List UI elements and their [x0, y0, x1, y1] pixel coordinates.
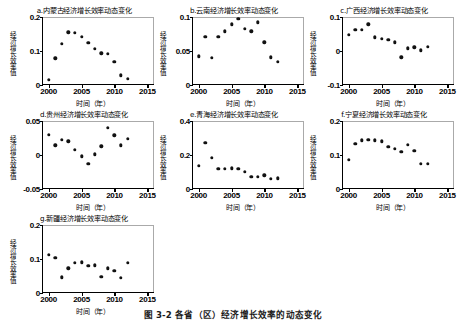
x-tick-label-d-2: 2010 [106, 191, 123, 200]
x-axis-a [42, 84, 154, 85]
x-tick-mark-e-3 [297, 189, 298, 192]
x-tick-mark-c-0 [349, 85, 350, 88]
x-tick-label-e-3: 2015 [289, 191, 306, 200]
y-tick-mark-g-2 [40, 225, 43, 226]
x-tick-mark-d-0 [49, 189, 50, 192]
x-tick-label-d-3: 2015 [139, 191, 156, 200]
x-tick-mark-f-0 [349, 189, 350, 192]
y-tick-mark-a-1 [40, 51, 43, 52]
y-tick-label-d-0: -0.05 [23, 185, 40, 194]
x-tick-label-d-0: 2000 [40, 191, 57, 200]
x-tick-mark-g-0 [49, 293, 50, 296]
x-tick-mark-e-2 [264, 189, 265, 192]
plot-frame-e [192, 121, 304, 189]
x-tick-mark-g-2 [114, 293, 115, 296]
x-axis-b [192, 84, 304, 85]
x-tick-mark-g-1 [82, 293, 83, 296]
x-tick-mark-e-1 [232, 189, 233, 192]
chart-panel-e: e.青海经济增长效率动态变化经济增长效率值时间（年）00.20.42000200… [158, 110, 310, 214]
y-axis-label-b: 经济增长效率值 [156, 18, 167, 88]
x-axis-label-c: 时间（年） [328, 98, 458, 108]
x-tick-label-g-0: 2000 [40, 295, 57, 304]
y-tick-label-d-2: 0.05 [26, 117, 40, 126]
x-axis-label-b: 时间（年） [178, 98, 308, 108]
x-tick-mark-f-3 [447, 189, 448, 192]
x-tick-label-g-2: 2010 [106, 295, 123, 304]
y-axis-label-d: 经济增长效率值 [6, 122, 17, 192]
y-tick-label-a-1: 0.1 [30, 47, 40, 56]
x-tick-mark-b-1 [232, 85, 233, 88]
plot-area-a: 00.10.22000200520102015 [42, 17, 154, 85]
x-axis-label-e: 时间（年） [178, 202, 308, 212]
plot-area-e: 00.20.42000200520102015 [192, 121, 304, 189]
chart-panel-c: c.广西经济增长效率动态变化经济增长效率值时间（年）-0.100.1200020… [308, 6, 460, 110]
x-tick-mark-c-1 [382, 85, 383, 88]
y-tick-label-f-1: 0.1 [330, 151, 340, 160]
x-tick-label-b-2: 2010 [256, 87, 273, 96]
y-axis-label-c: 经济增长效率值 [306, 18, 317, 88]
y-tick-mark-d-1 [40, 155, 43, 156]
plot-frame-a [42, 17, 154, 85]
x-tick-label-b-1: 2005 [223, 87, 240, 96]
plot-area-c: -0.100.12000200520102015 [342, 17, 454, 85]
x-tick-mark-a-3 [147, 85, 148, 88]
x-tick-mark-b-2 [264, 85, 265, 88]
y-tick-mark-d-2 [40, 121, 43, 122]
y-tick-label-g-2: 0.2 [30, 221, 40, 230]
y-tick-label-b-2: 0.1 [180, 13, 190, 22]
x-tick-mark-f-1 [382, 189, 383, 192]
y-axis-label-a: 经济增长效率值 [6, 18, 17, 88]
x-tick-label-e-1: 2005 [223, 191, 240, 200]
x-tick-label-a-2: 2010 [106, 87, 123, 96]
figure-caption: 图 3-2 各省（区）经济增长效率的动态变化 [0, 308, 466, 320]
x-axis-d [42, 188, 154, 189]
chart-panel-b: b.云南经济增长效率动态变化经济增长效率值时间（年）00.050.1200020… [158, 6, 310, 110]
y-axis-label-g: 经济增长效率值 [6, 226, 17, 296]
figure-container: a.内蒙古经济增长效率动态变化经济增长效率值时间（年）00.10.2200020… [0, 0, 466, 324]
chart-panel-f: f.宁夏经济增长效率动态变化经济增长效率值时间（年）00.10.22000200… [308, 110, 460, 214]
x-tick-mark-d-1 [82, 189, 83, 192]
x-tick-label-b-0: 2000 [190, 87, 207, 96]
x-tick-label-c-3: 2015 [439, 87, 456, 96]
plot-frame-b [192, 17, 304, 85]
y-tick-label-b-1: 0.05 [176, 47, 190, 56]
x-tick-mark-e-0 [199, 189, 200, 192]
x-tick-mark-a-0 [49, 85, 50, 88]
x-axis-label-d: 时间（年） [28, 202, 158, 212]
x-tick-mark-a-2 [114, 85, 115, 88]
x-tick-label-f-1: 2005 [373, 191, 390, 200]
y-tick-label-f-2: 0.2 [330, 117, 340, 126]
x-tick-mark-b-0 [199, 85, 200, 88]
y-tick-mark-e-2 [190, 121, 193, 122]
x-tick-mark-d-3 [147, 189, 148, 192]
x-tick-mark-a-1 [82, 85, 83, 88]
plot-area-f: 00.10.22000200520102015 [342, 121, 454, 189]
x-tick-label-c-2: 2010 [406, 87, 423, 96]
x-tick-label-e-2: 2010 [256, 191, 273, 200]
x-axis-g [42, 292, 154, 293]
x-tick-label-f-2: 2010 [406, 191, 423, 200]
x-tick-label-b-3: 2015 [289, 87, 306, 96]
x-tick-label-f-3: 2015 [439, 191, 456, 200]
y-tick-mark-b-1 [190, 51, 193, 52]
x-axis-f [342, 188, 454, 189]
x-tick-label-a-0: 2000 [40, 87, 57, 96]
x-tick-label-d-1: 2005 [73, 191, 90, 200]
y-tick-label-a-2: 0.2 [30, 13, 40, 22]
plot-area-g: 00.10.22000200520102015 [42, 225, 154, 293]
chart-panel-a: a.内蒙古经济增长效率动态变化经济增长效率值时间（年）00.10.2200020… [8, 6, 160, 110]
chart-panel-d: d.贵州经济增长效率动态变化经济增长效率值时间（年）-0.0500.052000… [8, 110, 160, 214]
plot-area-b: 00.050.12000200520102015 [192, 17, 304, 85]
plot-frame-f [342, 121, 454, 189]
y-tick-mark-c-1 [340, 51, 343, 52]
y-tick-label-e-2: 0.4 [180, 117, 190, 126]
x-axis-e [192, 188, 304, 189]
y-axis-label-f: 经济增长效率值 [306, 122, 317, 192]
y-tick-label-e-1: 0.2 [180, 151, 190, 160]
y-tick-mark-f-2 [340, 121, 343, 122]
y-tick-mark-e-1 [190, 155, 193, 156]
x-axis-c [342, 84, 454, 85]
x-tick-mark-d-2 [114, 189, 115, 192]
x-tick-label-a-3: 2015 [139, 87, 156, 96]
y-tick-mark-b-2 [190, 17, 193, 18]
